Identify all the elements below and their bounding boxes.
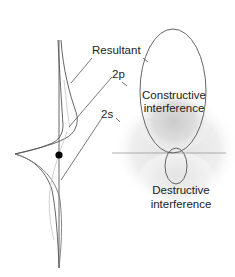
2p-curve-upper: [15, 40, 63, 154]
wavefunction-plot: [15, 40, 77, 268]
2s-tick: [116, 118, 120, 122]
resultant-label: Resultant: [92, 44, 141, 57]
2p-curve-lower: [15, 154, 59, 268]
2p-tick: [122, 82, 127, 86]
constructive-label-line1: Constructive: [142, 89, 206, 102]
resultant-leader: [71, 58, 92, 83]
hybrid-orbital-diagram: [0, 0, 235, 277]
2s-curve: [15, 154, 62, 268]
constructive-label-line2: interference: [144, 102, 205, 115]
destructive-label-line1: Destructive: [152, 184, 210, 197]
2s-leader: [61, 118, 102, 180]
destructive-label-line2: interference: [151, 198, 212, 211]
resultant-curve: [15, 40, 77, 154]
nucleus-dot: [55, 151, 62, 158]
2s-label: 2s: [101, 108, 113, 121]
2p-label: 2p: [112, 68, 125, 81]
faint-curve: [49, 132, 67, 240]
faint-curve-2: [64, 80, 70, 128]
